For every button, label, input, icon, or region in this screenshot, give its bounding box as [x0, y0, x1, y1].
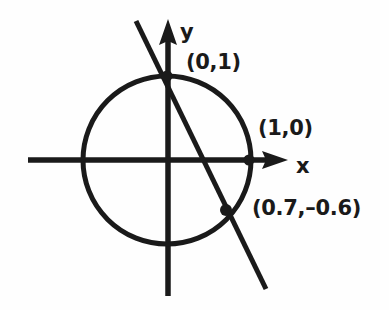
point-marker-07-neg06 — [220, 204, 232, 216]
point-marker-0-1 — [162, 71, 173, 82]
label-point-07-neg06: (0.7,–0.6) — [252, 198, 361, 219]
label-point-0-1: (0,1) — [186, 52, 241, 73]
label-axis-x: x — [296, 156, 309, 177]
figure-canvas: (0,1) (1,0) (0.7,–0.6) x y — [0, 0, 389, 310]
label-axis-y: y — [180, 22, 193, 43]
point-marker-1-0 — [244, 155, 255, 166]
label-point-1-0: (1,0) — [258, 118, 313, 139]
unit-circle-diagram — [0, 0, 389, 310]
